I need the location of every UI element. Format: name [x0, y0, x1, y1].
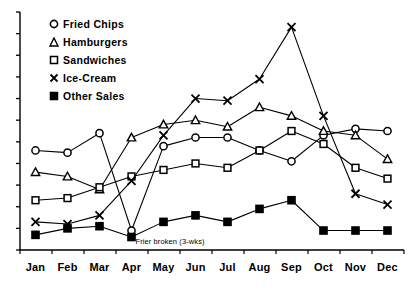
legend-label-ice-cream: Ice-Cream [63, 71, 116, 85]
circle-open-icon [45, 17, 63, 31]
x-axis-label: Mar [89, 261, 110, 273]
sales-line-chart: JanFebMarAprMayJunJulAugSepOctNovDec Fri… [0, 0, 416, 288]
x-axis-label: Jan [26, 261, 46, 273]
data-point-marker [96, 130, 103, 137]
data-point-marker [288, 158, 295, 165]
data-point-marker [320, 227, 327, 234]
x-axis-label: Jun [185, 261, 205, 273]
x-axis-label: Oct [314, 261, 333, 273]
data-point-marker [320, 141, 327, 148]
chart-legend: Fried Chips Hamburgers Sandwiches Ice-Cr… [45, 16, 128, 106]
x-axis-label: Aug [249, 261, 271, 273]
data-point-marker [64, 195, 71, 202]
data-point-marker [160, 131, 168, 139]
legend-label-other-sales: Other Sales [63, 89, 125, 103]
data-point-marker [256, 205, 263, 212]
series-line [36, 107, 388, 189]
data-point-marker [224, 218, 231, 225]
x-axis-label: May [153, 261, 176, 273]
data-point-marker [288, 128, 295, 135]
data-point-marker [64, 149, 71, 156]
x-axis-label: Feb [57, 261, 77, 273]
data-point-marker [192, 160, 199, 167]
data-point-marker [32, 147, 39, 154]
data-point-marker [352, 227, 359, 234]
data-point-marker [288, 197, 295, 204]
legend-item: Other Sales [45, 88, 128, 104]
data-point-marker [352, 164, 359, 171]
legend-item: Fried Chips [45, 16, 128, 32]
x-axis-label: Nov [345, 261, 367, 273]
legend-item: Hamburgers [45, 34, 128, 50]
data-point-marker [31, 168, 39, 176]
data-point-marker [352, 190, 360, 198]
x-axis-label: Sep [281, 261, 302, 273]
series-fried-chips [32, 125, 391, 234]
x-axis-label: Apr [122, 261, 142, 273]
data-point-marker [32, 231, 39, 238]
cross-icon [45, 71, 63, 85]
data-point-marker [384, 127, 391, 134]
triangle-open-icon [45, 35, 63, 49]
data-point-marker [384, 201, 392, 209]
data-point-marker [192, 134, 199, 141]
legend-item: Sandwiches [45, 52, 128, 68]
data-point-marker [384, 227, 391, 234]
data-point-marker [128, 233, 135, 240]
data-point-marker [192, 212, 199, 219]
data-point-marker [319, 127, 327, 135]
data-point-marker [224, 164, 231, 171]
legend-item: Ice-Cream [45, 70, 128, 86]
data-point-marker [96, 211, 104, 219]
data-point-marker [224, 134, 231, 141]
data-point-marker [96, 184, 103, 191]
legend-label-sandwiches: Sandwiches [63, 53, 127, 67]
x-axis-label: Jul [219, 261, 236, 273]
data-point-marker [320, 112, 328, 120]
data-point-marker [32, 197, 39, 204]
legend-label-fried-chips: Fried Chips [63, 17, 124, 31]
legend-label-hamburgers: Hamburgers [63, 35, 128, 49]
data-point-marker [255, 103, 263, 111]
square-open-icon [45, 53, 63, 67]
data-point-marker [384, 175, 391, 182]
data-point-marker [256, 147, 263, 154]
data-point-marker [96, 223, 103, 230]
series-sandwiches [32, 128, 391, 204]
series-line [36, 131, 388, 200]
series-hamburgers [31, 103, 391, 193]
x-axis-label: Dec [377, 261, 398, 273]
data-point-marker [160, 218, 167, 225]
data-point-marker [64, 225, 71, 232]
data-point-marker [383, 155, 391, 163]
data-point-marker [288, 23, 296, 31]
square-filled-icon [45, 89, 63, 103]
data-point-marker [160, 167, 167, 174]
data-point-marker [256, 75, 264, 83]
data-point-marker [160, 143, 167, 150]
data-point-marker [127, 133, 135, 141]
data-point-marker [191, 116, 199, 124]
annotation-frier-broken: Frier broken (3-wks) [136, 237, 205, 246]
